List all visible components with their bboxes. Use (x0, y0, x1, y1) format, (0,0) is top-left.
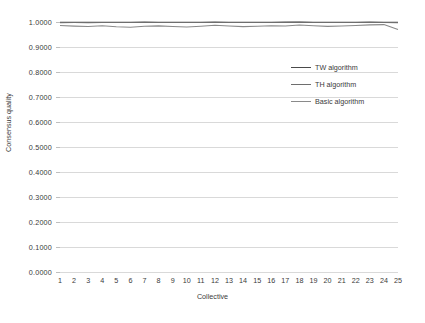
y-axis-tick-label: 0.3000 (29, 193, 52, 202)
y-axis-tick-label: 0.2000 (29, 218, 52, 227)
y-axis-tick (56, 272, 60, 273)
x-axis-tick-label: 11 (197, 276, 204, 285)
y-axis-tick-label: 1.0000 (29, 18, 52, 27)
x-axis-tick-label: 9 (171, 276, 175, 285)
x-axis-tick-label: 15 (253, 276, 261, 285)
x-axis-tick-label: 4 (100, 276, 104, 285)
x-axis-tick-label: 22 (352, 276, 360, 285)
legend-label: TW algorithm (315, 63, 358, 72)
x-axis-tick-label: 23 (366, 276, 374, 285)
x-axis-tick-label: 7 (143, 276, 147, 285)
y-axis-tick-label: 0.4000 (29, 168, 52, 177)
x-axis-title: Collective (0, 292, 425, 301)
x-axis-tick-label: 19 (310, 276, 318, 285)
x-axis-tick-label: 18 (295, 276, 303, 285)
legend-item-tw: TW algorithm (291, 60, 401, 75)
legend-label: TH algorithm (315, 80, 356, 89)
y-axis-tick-label: 0.9000 (29, 43, 52, 52)
legend-line-icon (291, 101, 311, 102)
legend-item-basic: Basic algorithm (291, 94, 401, 109)
y-axis-tick-label: 0.7000 (29, 93, 52, 102)
y-axis-tick-label: 0.5000 (29, 143, 52, 152)
x-axis-tick-labels: 1234567891011121314151617181920212223242… (60, 276, 398, 290)
x-axis-tick-label: 5 (114, 276, 118, 285)
legend: TW algorithm TH algorithm Basic algorith… (291, 60, 401, 111)
x-axis-tick-label: 13 (225, 276, 233, 285)
series-line (60, 25, 398, 30)
y-axis-tick-label: 0.6000 (29, 118, 52, 127)
gridline (60, 272, 398, 273)
y-axis-title: Consensus quality (4, 63, 13, 183)
legend-line-icon (291, 84, 311, 85)
x-axis-tick-label: 10 (183, 276, 191, 285)
y-axis-tick-label: 0.8000 (29, 68, 52, 77)
legend-line-icon (291, 67, 311, 68)
x-axis-tick-label: 14 (239, 276, 247, 285)
x-axis-tick-label: 1 (58, 276, 62, 285)
line-chart: 0.00000.10000.20000.30000.40000.50000.60… (0, 0, 425, 323)
x-axis-tick-label: 25 (394, 276, 402, 285)
x-axis-tick-label: 8 (157, 276, 161, 285)
x-axis-tick-label: 21 (338, 276, 346, 285)
x-axis-tick-label: 12 (211, 276, 219, 285)
legend-item-th: TH algorithm (291, 77, 401, 92)
x-axis-tick-label: 3 (86, 276, 90, 285)
legend-label: Basic algorithm (315, 97, 364, 106)
x-axis-tick-label: 6 (128, 276, 132, 285)
x-axis-tick-label: 2 (72, 276, 76, 285)
y-axis-tick-label: 0.0000 (29, 268, 52, 277)
y-axis-tick-label: 0.1000 (29, 243, 52, 252)
x-axis-tick-label: 20 (324, 276, 332, 285)
x-axis-tick-label: 24 (380, 276, 388, 285)
x-axis-tick-label: 17 (281, 276, 289, 285)
x-axis-tick-label: 16 (267, 276, 275, 285)
